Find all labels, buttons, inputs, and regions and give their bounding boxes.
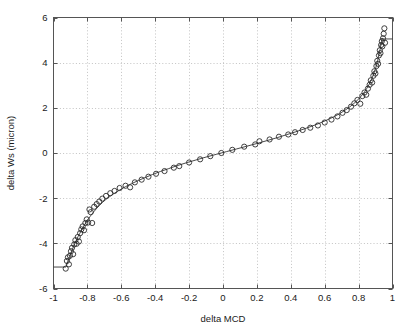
scatter-plot: -1-0.8-0.6-0.4-0.200.20.40.60.81 -6-4-20… xyxy=(0,0,418,327)
x-tick-label: 0 xyxy=(220,292,225,303)
x-tick-label: -0.4 xyxy=(147,292,163,303)
y-tick-label: -4 xyxy=(39,238,47,249)
x-tick-label: 0.6 xyxy=(318,292,331,303)
y-tick-label: 0 xyxy=(42,147,47,158)
x-tick-label: 1 xyxy=(390,292,395,303)
figure-background xyxy=(0,0,418,327)
y-tick-label: -2 xyxy=(39,193,47,204)
x-tick-label: 0.4 xyxy=(284,292,297,303)
x-tick-label: -0.2 xyxy=(181,292,197,303)
y-tick-label: 6 xyxy=(42,12,47,23)
x-tick-label: -0.6 xyxy=(113,292,129,303)
y-axis-label: delta Ws (micron) xyxy=(5,116,16,190)
x-tick-label: -1 xyxy=(49,292,57,303)
x-tick-label: 0.2 xyxy=(250,292,263,303)
x-axis-label: delta MCD xyxy=(201,313,246,324)
y-tick-label: 2 xyxy=(42,102,47,113)
x-tick-label: 0.8 xyxy=(352,292,365,303)
y-tick-label: 4 xyxy=(42,57,47,68)
x-tick-label: -0.8 xyxy=(79,292,95,303)
y-tick-label: -6 xyxy=(39,283,47,294)
chart-figure: -1-0.8-0.6-0.4-0.200.20.40.60.81 -6-4-20… xyxy=(0,0,418,327)
